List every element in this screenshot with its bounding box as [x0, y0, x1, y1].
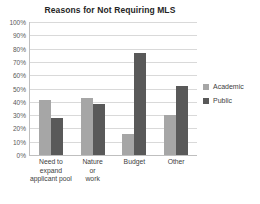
bar-academic — [39, 100, 51, 155]
legend-label: Academic — [213, 83, 244, 90]
y-axis-tick-label: 40% — [0, 98, 26, 105]
x-axis-category-line: or — [66, 167, 120, 176]
chart-legend: AcademicPublic — [203, 81, 259, 109]
bar-group — [155, 22, 197, 155]
bar-group — [30, 22, 72, 155]
x-axis: Need toexpandapplicant poolNatureorworkB… — [30, 158, 197, 202]
bars-layer — [30, 22, 197, 155]
x-axis-category-line: Other — [149, 158, 203, 167]
y-axis-tick-label: 0% — [0, 152, 26, 159]
bar-group — [114, 22, 156, 155]
bar-public — [51, 118, 63, 155]
y-axis-tick-label: 90% — [0, 32, 26, 39]
y-axis: 100%90%80%70%60%50%40%30%20%10%0% — [0, 22, 26, 156]
bar-chart: Reasons for Not Requiring MLS 100%90%80%… — [0, 0, 260, 204]
gridline — [30, 155, 197, 156]
bar-public — [176, 86, 188, 155]
y-axis-tick-label: 20% — [0, 125, 26, 132]
x-axis-category-line: work — [66, 175, 120, 184]
x-axis-category-label: Other — [149, 158, 203, 167]
y-axis-tick-label: 60% — [0, 72, 26, 79]
chart-title: Reasons for Not Requiring MLS — [30, 5, 190, 16]
bar-group — [72, 22, 114, 155]
y-axis-tick-label: 10% — [0, 138, 26, 145]
y-axis-tick-label: 80% — [0, 45, 26, 52]
y-axis-tick-label: 100% — [0, 19, 26, 26]
bar-public — [134, 53, 146, 155]
legend-swatch-icon — [203, 98, 209, 104]
bar-academic — [164, 115, 176, 155]
legend-label: Public — [213, 97, 232, 104]
legend-item-academic[interactable]: Academic — [203, 81, 259, 92]
y-axis-tick-label: 50% — [0, 85, 26, 92]
bar-academic — [122, 134, 134, 155]
legend-item-public[interactable]: Public — [203, 95, 259, 106]
bar-academic — [81, 98, 93, 155]
y-axis-tick-label: 70% — [0, 58, 26, 65]
y-axis-tick-label: 30% — [0, 112, 26, 119]
bar-public — [93, 104, 105, 155]
legend-swatch-icon — [203, 84, 209, 90]
